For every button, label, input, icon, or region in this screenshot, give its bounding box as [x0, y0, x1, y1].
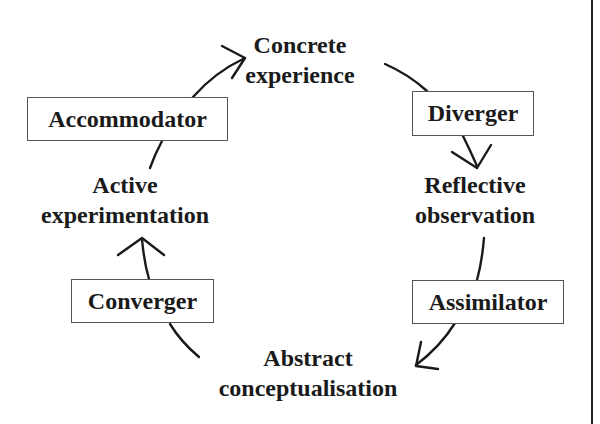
stage-active-experimentation: Active experimentation [41, 170, 209, 230]
stage-abstract-line2: conceptualisation [219, 373, 398, 403]
style-box-converger: Converger [71, 279, 214, 323]
style-label-accommodator: Accommodator [48, 106, 207, 133]
style-label-assimilator: Assimilator [429, 289, 548, 316]
style-box-assimilator: Assimilator [412, 280, 564, 324]
style-label-diverger: Diverger [428, 100, 519, 127]
stage-reflective-observation: Reflective observation [415, 170, 535, 230]
style-label-converger: Converger [88, 288, 197, 315]
stage-active-line2: experimentation [41, 200, 209, 230]
stage-concrete-line2: experience [245, 60, 354, 90]
stage-abstract-line1: Abstract [219, 343, 398, 373]
arrow-abstract-to-converger [170, 324, 199, 357]
stage-active-line1: Active [41, 170, 209, 200]
stage-abstract-conceptualisation: Abstract conceptualisation [219, 343, 398, 403]
arrow-assimilator-to-abstract [416, 323, 455, 365]
stage-concrete-experience: Concrete experience [245, 30, 354, 90]
style-box-accommodator: Accommodator [27, 97, 228, 141]
stage-concrete-line1: Concrete [245, 30, 354, 60]
arrowhead-concrete-icon [222, 46, 245, 78]
arrow-active-to-accommodator [150, 141, 162, 168]
arrow-converger-to-active [142, 239, 149, 279]
arrow-accommodator-to-concrete [193, 58, 245, 97]
right-border-rule [591, 0, 593, 424]
stage-reflective-line1: Reflective [415, 170, 535, 200]
arrow-reflective-to-assimilator [477, 238, 484, 280]
arrow-concrete-to-diverger [385, 64, 427, 91]
style-box-diverger: Diverger [412, 91, 534, 136]
stage-reflective-line2: observation [415, 200, 535, 230]
